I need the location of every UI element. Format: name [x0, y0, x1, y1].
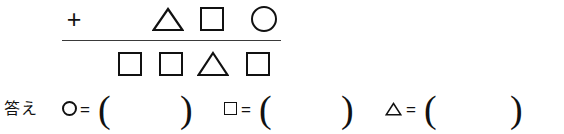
- answer-open-paren-square: (: [259, 90, 272, 128]
- answer-equals-square: =: [241, 100, 251, 120]
- answer-square-icon: [224, 102, 237, 115]
- answer-blank-square[interactable]: [275, 96, 343, 122]
- plus-sign: +: [62, 6, 86, 32]
- answer-entry-circle: = ( ): [60, 86, 192, 134]
- sum-square-icon-2: [159, 52, 183, 76]
- answer-circle-icon: [62, 101, 77, 116]
- answer-close-paren-square: ): [341, 90, 354, 128]
- answer-entry-triangle: = ( ): [385, 86, 525, 134]
- answer-label: 答え: [4, 98, 38, 120]
- answer-entry-square: = ( ): [222, 86, 354, 134]
- addend-circle-icon: [251, 6, 277, 32]
- answer-open-paren-triangle: (: [424, 90, 437, 128]
- answer-open-paren-circle: (: [98, 90, 111, 128]
- answer-close-paren-triangle: ): [510, 90, 523, 128]
- answer-close-paren-circle: ): [180, 90, 193, 128]
- arithmetic-problem: +: [0, 0, 564, 86]
- addend-triangle-icon: [152, 7, 184, 32]
- sum-triangle-icon: [197, 51, 229, 77]
- answer-blank-circle[interactable]: [114, 96, 182, 122]
- answer-triangle-icon: [385, 102, 402, 116]
- addend-square-icon: [200, 7, 224, 31]
- sum-square-icon-3: [246, 52, 270, 76]
- answer-row: 答え = ( ) = ( ) = ( ): [0, 86, 564, 134]
- answer-equals-circle: =: [80, 100, 90, 120]
- sum-square-icon-1: [118, 52, 142, 76]
- answer-blank-triangle[interactable]: [440, 96, 512, 122]
- answer-equals-triangle: =: [406, 100, 416, 120]
- fraction-rule: [62, 40, 281, 41]
